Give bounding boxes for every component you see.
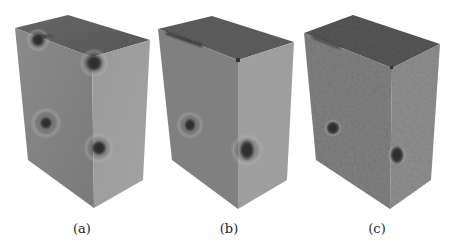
caption-a: (a) [62,221,102,236]
caption-b: (b) [209,221,249,236]
box-renderings [0,0,456,243]
box-c-right-face [390,44,440,209]
caption-c: (c) [357,221,397,236]
panel-c-box [304,15,440,209]
box-b-right-face [238,42,294,209]
figure-three-panels: (a) (b) (c) [0,0,456,243]
panel-b-box [158,16,294,209]
panel-a-box [15,15,150,208]
